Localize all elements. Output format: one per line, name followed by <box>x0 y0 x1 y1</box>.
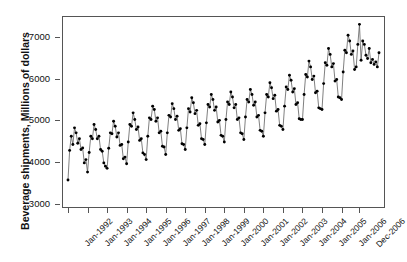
data-point <box>262 135 265 138</box>
data-point <box>247 101 250 104</box>
data-point <box>221 135 224 138</box>
data-point <box>174 118 177 121</box>
y-tick-mark <box>55 162 60 163</box>
data-point <box>107 147 110 150</box>
data-point <box>327 47 330 50</box>
data-point <box>115 136 118 139</box>
data-point <box>277 108 280 111</box>
data-point <box>146 135 149 138</box>
data-point <box>291 91 294 94</box>
data-point <box>288 74 291 77</box>
data-point <box>304 73 307 76</box>
data-point <box>78 137 81 140</box>
data-point <box>229 91 232 94</box>
data-point <box>361 40 364 43</box>
data-point <box>88 151 91 154</box>
data-point <box>101 150 104 153</box>
data-point <box>353 68 356 71</box>
data-point <box>195 109 198 112</box>
data-point <box>273 94 276 97</box>
data-point <box>187 107 190 110</box>
data-point <box>111 132 114 135</box>
data-point <box>260 130 263 133</box>
data-point <box>130 125 133 128</box>
data-point <box>342 70 345 73</box>
data-point <box>169 116 172 119</box>
data-point <box>231 96 234 99</box>
data-point <box>309 65 312 68</box>
data-point <box>311 78 314 81</box>
data-point <box>190 96 193 99</box>
data-point <box>249 88 252 91</box>
data-point <box>70 135 73 138</box>
y-tick-mark <box>55 120 60 121</box>
data-point <box>223 141 226 144</box>
data-point <box>198 122 201 125</box>
data-point <box>308 60 311 63</box>
y-tick-mark <box>55 37 60 38</box>
data-point <box>150 118 153 121</box>
data-point <box>67 179 70 182</box>
data-point <box>246 98 249 101</box>
data-point <box>208 106 211 109</box>
data-point <box>325 64 328 67</box>
data-point <box>321 108 324 111</box>
data-point <box>84 158 87 161</box>
data-point <box>91 137 94 140</box>
data-point <box>164 153 167 156</box>
data-point <box>329 53 332 56</box>
data-point <box>376 65 379 68</box>
data-point <box>366 57 369 60</box>
data-point <box>172 107 175 110</box>
data-point <box>363 43 366 46</box>
data-point <box>347 34 350 37</box>
data-point <box>350 53 353 56</box>
data-point <box>280 125 283 128</box>
data-point <box>252 104 255 107</box>
data-point <box>210 93 213 96</box>
data-point <box>360 59 363 62</box>
y-tick-mark <box>55 79 60 80</box>
data-point <box>233 106 236 109</box>
data-point <box>86 171 89 174</box>
data-point <box>127 141 130 144</box>
y-tick-label: 4000 <box>14 157 50 167</box>
data-point <box>151 105 154 108</box>
data-point <box>145 158 148 161</box>
data-point <box>365 54 368 57</box>
data-point <box>369 61 372 64</box>
series-beverage-shipments <box>62 16 385 208</box>
data-point <box>192 101 195 104</box>
data-point <box>303 93 306 96</box>
data-point <box>143 153 146 156</box>
data-point <box>224 118 227 121</box>
data-point <box>301 118 304 121</box>
data-point <box>171 102 174 105</box>
data-point <box>179 127 182 130</box>
data-point <box>356 43 359 46</box>
data-point <box>68 149 71 152</box>
data-point <box>135 128 138 131</box>
data-point <box>71 143 74 146</box>
data-point <box>264 111 267 114</box>
data-point <box>185 126 188 129</box>
y-tick-label: 7000 <box>14 32 50 42</box>
data-point <box>358 23 361 26</box>
data-point <box>270 86 273 89</box>
data-point <box>226 101 229 104</box>
data-point <box>89 135 92 138</box>
data-point <box>324 61 327 64</box>
y-tick-label: 6000 <box>14 74 50 84</box>
data-point <box>290 79 293 82</box>
data-point <box>293 87 296 90</box>
data-point <box>205 121 208 124</box>
data-point <box>106 167 109 170</box>
data-point <box>203 143 206 146</box>
data-point <box>345 51 348 54</box>
data-point <box>97 135 100 138</box>
data-point <box>374 60 377 63</box>
data-point <box>335 78 338 81</box>
data-point <box>213 109 216 112</box>
x-axis-labels: Jan-1992Jan-1993Jan-1994Jan-1995Jan-1996… <box>0 208 397 262</box>
